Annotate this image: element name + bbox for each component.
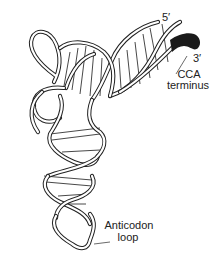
- cca-terminus-shape: [170, 33, 200, 52]
- ribbon-strands: [31, 22, 180, 248]
- three-prime-label: 3′: [189, 52, 205, 64]
- acceptor-stem-base-pairs: [119, 24, 168, 88]
- t-arm-base-pairs: [64, 46, 102, 96]
- d-stem-base-pairs: [50, 128, 100, 152]
- trna-diagram: 5′ 3′ CCA terminus Anticodon loop: [0, 0, 214, 263]
- anticodon-label-line1: Anticodon: [98, 219, 160, 231]
- anticodon-label-line2: loop: [108, 231, 148, 243]
- five-prime-label: 5′: [158, 11, 174, 23]
- cca-label-line2: terminus: [162, 79, 214, 91]
